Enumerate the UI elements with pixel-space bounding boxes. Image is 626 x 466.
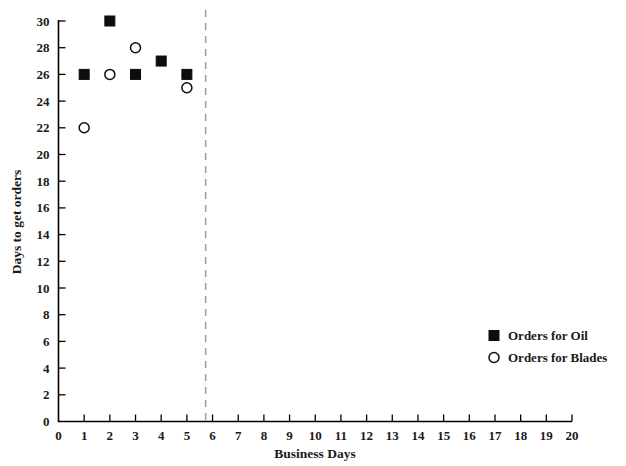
x-tick-label: 0 [55, 428, 62, 443]
legend-marker-filled-square [489, 331, 499, 341]
y-tick-label: 16 [37, 200, 51, 215]
data-point-orders-for-oil [182, 69, 192, 79]
x-tick-label: 14 [411, 428, 425, 443]
x-tick-label: 1 [81, 428, 88, 443]
x-tick-label: 20 [566, 428, 579, 443]
y-tick-label: 22 [37, 120, 50, 135]
x-tick-label: 3 [132, 428, 139, 443]
legend-label-orders-for-blades: Orders for Blades [508, 350, 607, 365]
x-tick-label: 9 [286, 428, 293, 443]
y-tick-label: 26 [37, 67, 51, 82]
data-point-group [79, 16, 192, 133]
x-axis-ticks [84, 415, 572, 422]
chart-legend: Orders for Oil Orders for Blades [489, 328, 607, 365]
data-point-orders-for-blades [79, 123, 89, 133]
x-axis-title: Business Days [274, 446, 355, 461]
x-axis-tick-labels: 01234567891011121314151617181920 [55, 428, 578, 443]
x-tick-label: 10 [309, 428, 322, 443]
y-tick-label: 2 [43, 387, 50, 402]
y-tick-label: 14 [37, 227, 51, 242]
y-tick-label: 8 [43, 307, 50, 322]
x-tick-label: 12 [360, 428, 373, 443]
chart-canvas: 024681012141618202224262830 012345678910… [0, 0, 626, 466]
x-tick-label: 16 [463, 428, 477, 443]
y-tick-label: 24 [37, 94, 51, 109]
legend-marker-open-circle [489, 353, 499, 363]
y-tick-label: 0 [43, 414, 50, 429]
x-tick-label: 18 [514, 428, 528, 443]
x-tick-label: 5 [184, 428, 191, 443]
x-tick-label: 4 [158, 428, 165, 443]
y-axis-ticks [59, 21, 66, 395]
y-axis-title: Days to get orders [9, 170, 24, 275]
y-axis-tick-labels: 024681012141618202224262830 [37, 14, 51, 430]
y-tick-label: 30 [37, 14, 50, 29]
y-tick-label: 12 [37, 254, 50, 269]
legend-label-orders-for-oil: Orders for Oil [508, 328, 588, 343]
y-tick-label: 6 [43, 334, 50, 349]
data-point-orders-for-oil [79, 69, 89, 79]
data-point-orders-for-blades [105, 69, 115, 79]
x-tick-label: 15 [437, 428, 451, 443]
y-tick-label: 18 [37, 174, 51, 189]
x-tick-label: 6 [209, 428, 216, 443]
data-point-orders-for-blades [182, 83, 192, 93]
x-tick-label: 2 [107, 428, 114, 443]
x-tick-label: 13 [386, 428, 400, 443]
data-point-orders-for-oil [105, 16, 115, 26]
x-tick-label: 8 [261, 428, 268, 443]
x-tick-label: 11 [335, 428, 347, 443]
y-tick-label: 28 [37, 40, 51, 55]
y-tick-label: 10 [37, 281, 50, 296]
data-point-orders-for-oil [131, 69, 141, 79]
scatter-chart: 024681012141618202224262830 012345678910… [0, 0, 626, 466]
x-tick-label: 17 [488, 428, 502, 443]
x-tick-label: 19 [540, 428, 554, 443]
x-tick-label: 7 [235, 428, 242, 443]
y-tick-label: 20 [37, 147, 50, 162]
y-tick-label: 4 [43, 361, 50, 376]
data-point-orders-for-blades [131, 43, 141, 53]
data-point-orders-for-oil [156, 56, 166, 66]
